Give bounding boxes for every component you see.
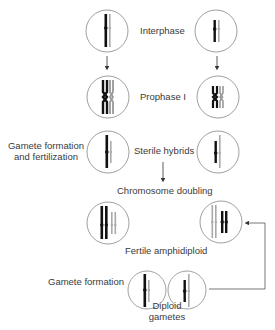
cell-hybrid-right — [197, 131, 239, 173]
label-prophase: Prophase I — [140, 91, 186, 102]
arrow-connector-gametes — [209, 223, 265, 289]
cell-hybrid-left — [87, 131, 129, 173]
label-sterile-hybrids: Sterile hybrids — [134, 145, 194, 156]
label-gamete-fertilization-1: Gamete formation — [6, 140, 86, 151]
cell-amphidiploid-left — [87, 202, 129, 244]
cell-amphidiploid-right — [200, 201, 242, 243]
label-gametes: gametes — [140, 311, 194, 322]
label-diploid: Diploid — [140, 300, 194, 311]
label-fertile-amphidiploid: Fertile amphidiploid — [125, 245, 207, 256]
cell-prophase-right — [197, 76, 239, 118]
cell-interphase-left — [86, 10, 128, 52]
diagram-canvas — [0, 0, 275, 330]
label-gamete-formation: Gamete formation — [48, 276, 124, 287]
label-interphase: Interphase — [140, 25, 185, 36]
cell-prophase-left — [87, 76, 129, 118]
cell-interphase-right — [195, 10, 237, 52]
label-chromosome-doubling: Chromosome doubling — [117, 185, 213, 196]
label-gamete-fertilization-2: and fertilization — [6, 151, 86, 162]
